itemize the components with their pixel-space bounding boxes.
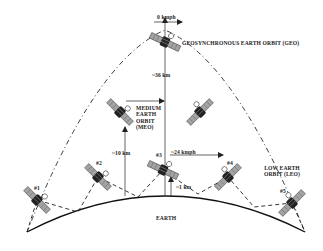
leo-orbit-label: LOW EARTH ORBIT (LEO) — [264, 165, 300, 178]
satellite-icon-geo — [148, 26, 184, 54]
satellite-number-2: #2 — [96, 160, 102, 166]
earth-label: EARTH — [156, 215, 176, 221]
satellite-number-5: #5 — [280, 188, 286, 194]
satellite-icon-leo-3 — [146, 154, 182, 182]
satellite-number-3: #3 — [156, 152, 162, 158]
geo-altitude-label: ~36 km — [152, 72, 170, 78]
leo-orbit-path — [27, 170, 305, 232]
leo-label-line2: ORBIT (LEO) — [264, 171, 300, 177]
meo-altitude-label: ~10 km — [112, 150, 130, 156]
satellite-icon-leo-5 — [273, 184, 307, 218]
geo-orbit-path — [27, 30, 305, 232]
earth-surface — [27, 196, 305, 232]
meo-orbit-label: MEDIUM EARTH ORBIT (MEO) — [136, 105, 161, 131]
orbit-diagram — [0, 0, 323, 251]
satellite-number-4: #4 — [227, 160, 233, 166]
leo-speed-label: ~24 kmph — [171, 149, 196, 155]
leo-altitude-label: ~1 km — [176, 184, 191, 190]
satellite-icon-meo-right — [181, 93, 215, 127]
satellite-icon-meo-left — [105, 93, 139, 127]
geo-speed-label: 0 kmph — [157, 14, 176, 20]
satellite-number-1: #1 — [34, 185, 40, 191]
meo-label-line4: (MEO) — [136, 124, 161, 130]
geo-orbit-label: GEOSYNCHRONOUS EARTH ORBIT (GEO) — [182, 40, 299, 46]
